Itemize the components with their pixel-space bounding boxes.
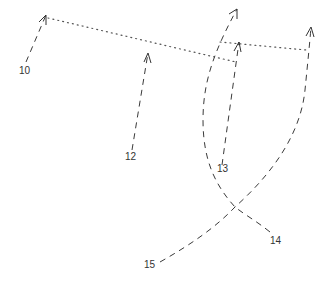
trajectory-13	[222, 42, 241, 165]
label-15: 15	[144, 259, 156, 270]
trajectory-10	[26, 15, 46, 62]
dotted-connector-b	[220, 42, 306, 50]
label-13: 13	[217, 163, 229, 174]
trajectory-12	[132, 53, 151, 150]
label-10: 10	[19, 65, 31, 76]
trajectory-14	[203, 9, 270, 232]
trajectory-diagram: 10 12 13 14 15	[0, 0, 329, 282]
label-12: 12	[125, 151, 137, 162]
arrowhead-icon	[39, 15, 46, 25]
trajectory-15	[160, 27, 314, 262]
dotted-connector-a	[48, 18, 236, 62]
label-14: 14	[270, 235, 282, 246]
